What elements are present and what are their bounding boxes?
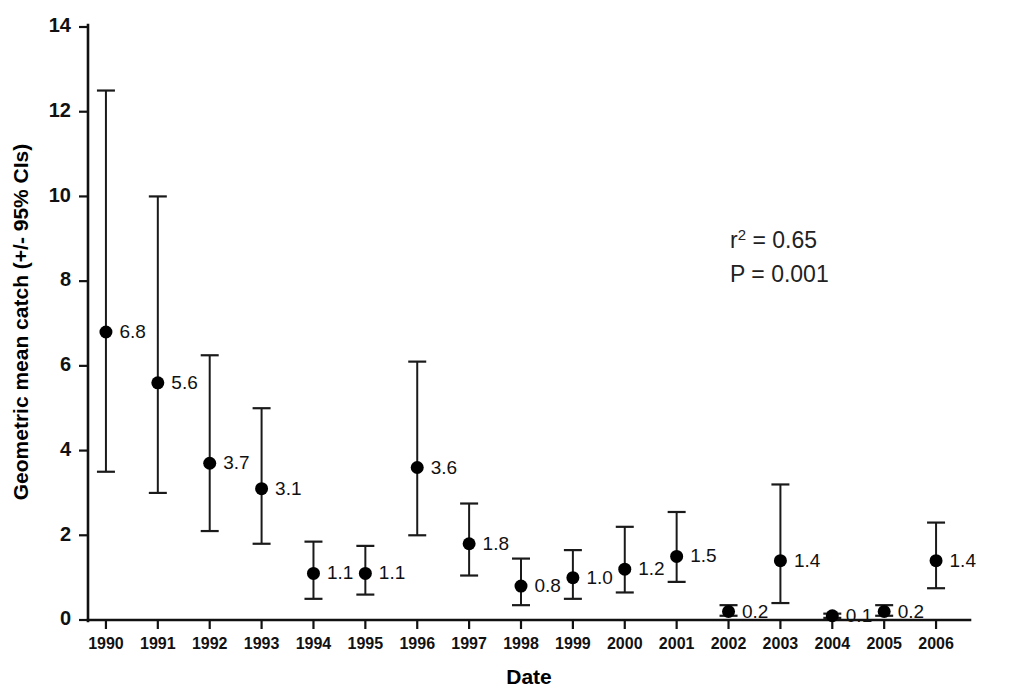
data-point-value-label: 0.1 xyxy=(846,605,872,626)
data-point-value-label: 1.0 xyxy=(586,567,612,588)
x-axis-tick-label: 1990 xyxy=(88,635,124,652)
y-axis-tick-label: 12 xyxy=(49,99,71,121)
data-point-marker xyxy=(826,609,839,622)
data-point-value-label: 6.8 xyxy=(119,321,145,342)
axes xyxy=(88,25,970,621)
x-axis-tick-label: 2001 xyxy=(659,635,695,652)
data-point-value-label: 5.6 xyxy=(171,372,197,393)
data-point-group: 5.6 xyxy=(149,196,198,493)
data-point-marker xyxy=(307,567,320,580)
data-point-group: 0.8 xyxy=(512,559,561,606)
data-point-value-label: 3.7 xyxy=(223,452,249,473)
y-axis-tick-label: 4 xyxy=(60,438,72,460)
x-axis-title: Date xyxy=(506,665,552,688)
data-point-value-label: 3.1 xyxy=(275,478,301,499)
data-point-group: 1.8 xyxy=(460,504,509,576)
data-point-group: 3.7 xyxy=(201,355,250,531)
data-point-value-label: 0.2 xyxy=(898,601,924,622)
data-point-group: 0.1 xyxy=(823,605,872,626)
p-value-annotation: P = 0.001 xyxy=(730,261,829,287)
data-point-group: 3.1 xyxy=(253,408,302,544)
x-axis-tick-label: 2004 xyxy=(814,635,850,652)
x-axis-tick-label: 1999 xyxy=(555,635,591,652)
data-point-value-label: 1.2 xyxy=(638,558,664,579)
data-point-value-label: 3.6 xyxy=(431,457,457,478)
x-axis-ticks: 1990199119921993199419951996199719981999… xyxy=(88,620,954,652)
data-point-group: 1.2 xyxy=(616,527,665,593)
x-axis-tick-label: 1996 xyxy=(399,635,435,652)
data-point-value-label: 0.2 xyxy=(742,601,768,622)
y-axis-tick-label: 8 xyxy=(60,268,71,290)
data-point-group: 0.2 xyxy=(720,601,769,622)
x-axis-tick-label: 2005 xyxy=(866,635,902,652)
y-axis-tick-label: 6 xyxy=(60,353,71,375)
data-point-marker xyxy=(618,563,631,576)
y-axis-tick-label: 2 xyxy=(60,523,71,545)
figure-container: 02468101214 1990199119921993199419951996… xyxy=(0,0,1014,699)
data-point-value-label: 1.1 xyxy=(379,562,405,583)
x-axis-tick-label: 1992 xyxy=(192,635,228,652)
x-axis-tick-label: 2006 xyxy=(918,635,954,652)
data-point-value-label: 1.1 xyxy=(327,562,353,583)
y-axis-ticks: 02468101214 xyxy=(49,14,88,629)
data-point-marker xyxy=(515,580,528,593)
data-point-group: 1.1 xyxy=(304,542,353,599)
data-point-group: 1.4 xyxy=(771,484,820,603)
data-point-marker xyxy=(359,567,372,580)
y-axis-tick-label: 10 xyxy=(49,184,71,206)
data-series: 6.85.63.73.11.11.13.61.80.81.01.21.50.21… xyxy=(97,91,976,626)
data-point-marker xyxy=(722,605,735,618)
x-axis-tick-label: 1995 xyxy=(348,635,384,652)
data-point-value-label: 1.5 xyxy=(690,545,716,566)
y-axis-tick-label: 14 xyxy=(49,14,72,36)
x-axis-tick-label: 1998 xyxy=(503,635,539,652)
data-point-group: 0.2 xyxy=(875,601,924,622)
r-squared-annotation: r2 = 0.65 xyxy=(730,226,817,253)
x-axis-tick-label: 1994 xyxy=(296,635,332,652)
data-point-group: 1.1 xyxy=(356,546,405,595)
data-point-group: 1.4 xyxy=(927,523,976,589)
data-point-group: 6.8 xyxy=(97,91,146,472)
data-point-group: 3.6 xyxy=(408,362,457,536)
statistics-annotations: r2 = 0.65 P = 0.001 xyxy=(730,226,829,287)
data-point-group: 1.0 xyxy=(564,550,613,599)
data-point-marker xyxy=(566,571,579,584)
data-point-value-label: 1.4 xyxy=(794,550,821,571)
data-point-marker xyxy=(203,457,216,470)
y-axis-tick-label: 0 xyxy=(60,607,71,629)
x-axis-tick-label: 2003 xyxy=(763,635,799,652)
y-axis-title: Geometric mean catch (+/- 95% CIs) xyxy=(9,144,32,501)
data-point-marker xyxy=(151,376,164,389)
x-axis-tick-label: 1997 xyxy=(451,635,487,652)
data-point-marker xyxy=(774,554,787,567)
data-point-marker xyxy=(255,482,268,495)
data-point-marker xyxy=(670,550,683,563)
data-point-group: 1.5 xyxy=(668,512,717,582)
scatter-plot-with-error-bars: 02468101214 1990199119921993199419951996… xyxy=(0,0,1014,699)
data-point-marker xyxy=(411,461,424,474)
data-point-marker xyxy=(463,537,476,550)
data-point-marker xyxy=(930,554,943,567)
data-point-value-label: 0.8 xyxy=(535,575,561,596)
data-point-marker xyxy=(99,325,112,338)
x-axis-tick-label: 2002 xyxy=(711,635,747,652)
data-point-value-label: 1.4 xyxy=(950,550,977,571)
x-axis-tick-label: 2000 xyxy=(607,635,643,652)
x-axis-tick-label: 1993 xyxy=(244,635,280,652)
data-point-marker xyxy=(878,605,891,618)
x-axis-tick-label: 1991 xyxy=(140,635,176,652)
data-point-value-label: 1.8 xyxy=(483,533,509,554)
